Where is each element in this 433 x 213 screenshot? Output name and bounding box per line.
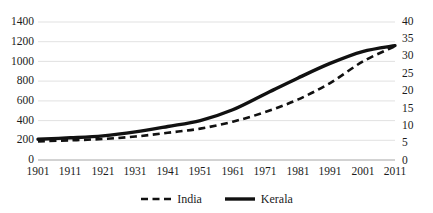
legend-item-india: India — [140, 192, 202, 207]
x-axis-tick-1951: 1951 — [183, 166, 217, 178]
x-axis-tick-1901: 1901 — [21, 166, 55, 178]
x-axis-tick-1921: 1921 — [86, 166, 120, 178]
legend-swatch-dashed-icon — [140, 195, 172, 203]
legend-swatch-solid-icon — [224, 195, 256, 203]
x-axis-tick-1961: 1961 — [216, 166, 250, 178]
x-axis-tick-1941: 1941 — [151, 166, 185, 178]
gridlines — [38, 22, 395, 140]
plot-area — [0, 0, 433, 213]
legend-label-kerala: Kerala — [261, 192, 293, 207]
x-axis-tick-2011: 2011 — [378, 166, 412, 178]
chart-container: 1400 1200 1000 800 600 400 200 0 40 35 3… — [0, 0, 433, 213]
x-axis-tick-1991: 1991 — [313, 166, 347, 178]
x-axis-tick-2001: 2001 — [346, 166, 380, 178]
x-axis-tick-1931: 1931 — [118, 166, 152, 178]
x-axis-tick-1911: 1911 — [53, 166, 87, 178]
legend-label-india: India — [177, 192, 202, 207]
chart-legend: India Kerala — [0, 188, 433, 210]
series-line-kerala — [38, 46, 395, 140]
x-axis-tick-1981: 1981 — [281, 166, 315, 178]
legend-item-kerala: Kerala — [224, 192, 293, 207]
x-axis-tick-1971: 1971 — [248, 166, 282, 178]
